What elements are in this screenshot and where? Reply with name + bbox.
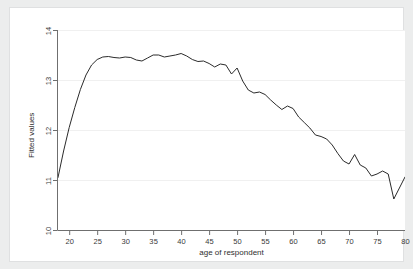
fitted-values-line — [58, 54, 405, 200]
x-tick-label: 30 — [117, 237, 135, 246]
x-axis-title: age of respondent — [58, 248, 405, 257]
chart-figure: 1011121314 20253035404550556065707580 Fi… — [0, 0, 413, 269]
x-tick-marks — [70, 231, 405, 236]
x-tick-label: 65 — [313, 237, 331, 246]
y-axis-title: Fitted values — [27, 113, 36, 158]
y-tick-label: 12 — [44, 124, 53, 138]
chart-inner-frame: 1011121314 20253035404550556065707580 Fi… — [9, 7, 404, 262]
x-tick-label: 55 — [257, 237, 275, 246]
x-tick-label: 40 — [173, 237, 191, 246]
y-tick-label: 10 — [44, 224, 53, 238]
line-chart-svg — [58, 30, 405, 230]
x-tick-label: 70 — [341, 237, 359, 246]
x-tick-label: 60 — [285, 237, 303, 246]
y-tick-label: 11 — [44, 174, 53, 188]
y-tick-marks — [53, 31, 58, 231]
x-tick-label: 35 — [145, 237, 163, 246]
x-tick-label: 45 — [201, 237, 219, 246]
x-tick-label: 25 — [89, 237, 107, 246]
plot-region — [58, 30, 405, 230]
gridlines-group — [58, 31, 405, 231]
y-tick-label: 14 — [44, 24, 53, 38]
x-tick-label: 20 — [61, 237, 79, 246]
x-tick-label: 80 — [397, 237, 413, 246]
x-tick-label: 50 — [229, 237, 247, 246]
x-tick-label: 75 — [369, 237, 387, 246]
y-tick-label: 13 — [44, 74, 53, 88]
